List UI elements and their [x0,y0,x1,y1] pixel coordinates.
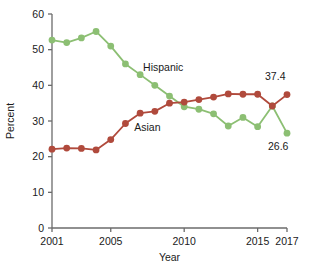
line-chart: 010203040506020012005201020152017YearPer… [0,0,329,270]
data-point-asian [137,110,144,117]
data-point-hispanic [195,106,202,113]
data-point-hispanic [122,61,129,68]
data-point-asian [240,91,247,98]
data-point-asian [63,145,70,152]
y-axis-tick-label: 40 [32,79,44,91]
x-axis-tick-label: 2017 [275,235,299,247]
data-point-asian [269,103,276,110]
data-point-hispanic [254,123,261,130]
data-point-asian [78,145,85,152]
hispanic-end-value: 26.6 [268,140,289,152]
data-point-asian [107,136,114,143]
data-point-asian [225,90,232,97]
y-axis-tick-label: 20 [32,150,44,162]
data-point-asian [166,100,173,107]
data-point-asian [122,120,129,127]
series-label-hispanic: Hispanic [143,61,183,73]
y-axis-tick-label: 60 [32,8,44,20]
data-point-hispanic [225,123,232,130]
data-point-asian [210,94,217,101]
data-point-asian [151,108,158,115]
y-axis-tick-label: 10 [32,186,44,198]
x-axis-tick-label: 2010 [173,235,197,247]
y-axis-tick-label: 50 [32,43,44,55]
data-point-hispanic [78,35,85,42]
data-point-asian [195,96,202,103]
data-point-hispanic [107,43,114,50]
data-point-asian [49,146,56,153]
data-point-hispanic [210,110,217,117]
x-axis-title: Year [159,251,181,263]
data-point-hispanic [49,37,56,44]
chart-canvas: 010203040506020012005201020152017YearPer… [0,0,329,270]
y-axis-title: Percent [4,103,16,139]
x-axis-tick-label: 2005 [99,235,123,247]
data-point-hispanic [240,114,247,121]
x-axis-tick-label: 2001 [40,235,64,247]
data-point-asian [181,99,188,106]
data-point-hispanic [93,28,100,35]
data-point-asian [93,146,100,153]
x-axis-tick-label: 2015 [246,235,270,247]
series-label-asian: Asian [134,121,160,133]
asian-end-value: 37.4 [265,70,286,82]
data-point-hispanic [63,39,70,46]
y-axis-tick-label: 30 [32,115,44,127]
data-point-asian [284,91,291,98]
data-point-hispanic [151,82,158,89]
data-point-hispanic [284,130,291,137]
y-axis-tick-label: 0 [38,222,44,234]
data-point-hispanic [166,93,173,100]
data-point-asian [254,91,261,98]
series-line-hispanic [52,31,287,133]
